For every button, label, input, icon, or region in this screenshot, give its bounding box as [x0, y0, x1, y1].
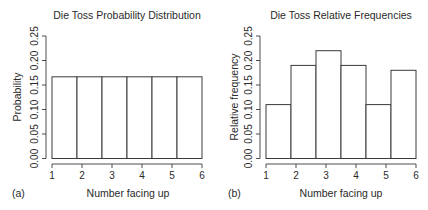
chart-title: Die Toss Relative Frequencies — [270, 9, 412, 21]
bar-2 — [77, 77, 102, 159]
x-tick-label: 1 — [49, 170, 55, 181]
x-axis: 123456 — [49, 164, 205, 181]
x-tick-label: 3 — [323, 170, 329, 181]
bar-4 — [127, 77, 152, 159]
x-tick-label: 4 — [139, 170, 145, 181]
x-tick-label: 2 — [293, 170, 299, 181]
x-tick-label: 4 — [353, 170, 359, 181]
y-tick-label: 0.10 — [29, 99, 40, 119]
y-tick-label: 0.00 — [243, 148, 254, 168]
x-axis-label: Number facing up — [87, 187, 170, 199]
bar-1 — [266, 105, 291, 159]
bar-series — [266, 51, 416, 159]
y-tick-label: 0.05 — [29, 124, 40, 144]
y-tick-label: 0.05 — [243, 124, 254, 144]
y-tick-label: 0.10 — [243, 99, 254, 119]
chart-title: Die Toss Probability Distribution — [53, 9, 201, 21]
y-tick-label: 0.00 — [29, 148, 40, 168]
x-axis: 123456 — [263, 164, 419, 181]
chart-panel-b: Die Toss Relative Frequencies Relative f… — [228, 9, 419, 199]
figure: Die Toss Probability Distribution Probab… — [0, 0, 428, 210]
y-axis: 0.000.050.100.150.200.25 — [243, 26, 260, 168]
y-axis-label: Probability — [11, 72, 23, 122]
x-tick-label: 1 — [263, 170, 269, 181]
x-tick-label: 6 — [413, 170, 419, 181]
bar-2 — [291, 65, 316, 158]
y-axis: 0.000.050.100.150.200.25 — [29, 26, 46, 168]
y-tick-label: 0.15 — [29, 75, 40, 95]
bar-1 — [52, 77, 77, 159]
x-tick-label: 5 — [383, 170, 389, 181]
y-tick-label: 0.15 — [243, 75, 254, 95]
y-tick-label: 0.25 — [29, 26, 40, 46]
panel-label: (b) — [228, 187, 241, 199]
x-tick-label: 2 — [79, 170, 85, 181]
y-tick-label: 0.25 — [243, 26, 254, 46]
chart-panel-a: Die Toss Probability Distribution Probab… — [11, 9, 205, 199]
y-tick-label: 0.20 — [243, 50, 254, 70]
bar-5 — [366, 105, 391, 159]
bar-5 — [152, 77, 177, 159]
bar-3 — [316, 51, 341, 159]
x-tick-label: 6 — [199, 170, 205, 181]
bar-4 — [341, 65, 366, 158]
x-tick-label: 3 — [109, 170, 115, 181]
y-tick-label: 0.20 — [29, 50, 40, 70]
x-axis-label: Number facing up — [300, 187, 383, 199]
chart-canvas: Die Toss Probability Distribution Probab… — [0, 0, 428, 210]
x-tick-label: 5 — [169, 170, 175, 181]
bar-series — [52, 77, 202, 159]
y-axis-label: Relative frequency — [228, 53, 240, 141]
bar-3 — [102, 77, 127, 159]
bar-6 — [391, 70, 416, 158]
bar-6 — [177, 77, 202, 159]
panel-label: (a) — [12, 187, 25, 199]
